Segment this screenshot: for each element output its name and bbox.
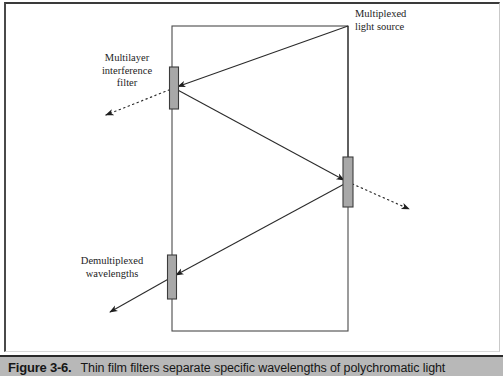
figure-page: Multiplexed light source Multilayer inte… <box>0 0 503 376</box>
demultiplexing-filter-bottom <box>168 255 177 299</box>
label-multilayer-interference-filter: Multilayer interference filter <box>88 52 166 90</box>
label-multiplexed-light-source: Multiplexed light source <box>355 8 406 33</box>
optical-filter-diagram <box>0 0 503 352</box>
ray-left-filter-to-right-filter <box>174 88 344 180</box>
ray-dropped-wavelength-left <box>106 88 174 115</box>
ray-bottom-filter-output <box>110 277 172 312</box>
waveguide-body <box>172 26 348 331</box>
multilayer-interference-filter <box>170 67 179 109</box>
figure-caption-bar: Figure 3-6.Thin film filters separate sp… <box>0 355 503 376</box>
label-demultiplexed-wavelengths: Demultiplexed wavelengths <box>58 255 166 280</box>
ray-right-filter-to-bottom-filter <box>176 182 348 275</box>
ray-source-to-left-filter <box>178 26 348 87</box>
figure-caption-text: Thin film filters separate specific wave… <box>81 361 446 375</box>
figure-caption: Figure 3-6.Thin film filters separate sp… <box>8 358 445 376</box>
output-filter-right <box>343 157 353 207</box>
figure-number: Figure 3-6. <box>8 360 72 375</box>
ray-dropped-wavelength-right <box>348 182 409 209</box>
